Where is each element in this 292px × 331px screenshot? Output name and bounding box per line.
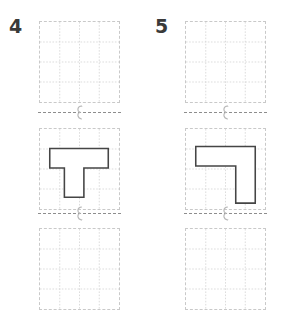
problem-5-panel-middle[interactable] (185, 128, 266, 210)
problem-4-shape-t (40, 129, 119, 209)
grid-lines (186, 22, 265, 102)
problem-number-4: 4 (9, 17, 22, 36)
problem-4: 4 (0, 0, 146, 331)
worksheet: 4 (0, 0, 292, 331)
fold-arrow-icon (219, 104, 233, 122)
problem-5-panel-bottom[interactable] (185, 228, 266, 310)
problem-4-panel-top[interactable] (39, 21, 120, 103)
problem-4-panel-middle[interactable] (39, 128, 120, 210)
fold-arrow-icon (73, 104, 87, 122)
problem-5-shape-l (186, 129, 265, 209)
fold-arrow-icon (73, 205, 87, 223)
problem-5-panel-top[interactable] (185, 21, 266, 103)
problem-4-separator-upper (38, 104, 121, 122)
grid-lines (40, 229, 119, 309)
problem-5: 5 (146, 0, 292, 331)
problem-5-separator-lower (184, 205, 267, 223)
grid-lines (40, 22, 119, 102)
problem-5-separator-upper (184, 104, 267, 122)
grid-lines (186, 229, 265, 309)
problem-4-panel-bottom[interactable] (39, 228, 120, 310)
problem-4-separator-lower (38, 205, 121, 223)
fold-arrow-icon (219, 205, 233, 223)
problem-number-5: 5 (155, 17, 168, 36)
